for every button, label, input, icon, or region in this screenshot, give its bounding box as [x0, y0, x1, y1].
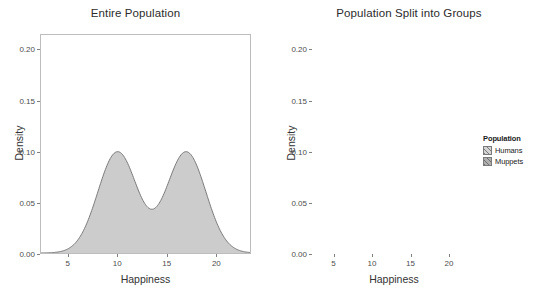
- y-tick-mark-right: [309, 101, 312, 102]
- density-plot-left: [41, 35, 250, 253]
- density-area-entire-population: [41, 152, 250, 253]
- x-tick-label-right: 5: [331, 259, 335, 268]
- x-axis-right: 5101520: [312, 254, 476, 270]
- facet-entire-population: Entire Population Density Happiness 0.00…: [0, 0, 271, 296]
- legend-item-humans[interactable]: Humans: [483, 145, 541, 155]
- legend-item-muppets[interactable]: Muppets: [483, 156, 541, 166]
- x-axis-left: 5101520: [40, 254, 251, 270]
- x-tick-mark-left: [216, 254, 217, 257]
- x-tick-mark-right: [334, 254, 335, 257]
- legend: Population HumansMuppets: [483, 134, 541, 167]
- plot-panel-left: [40, 34, 251, 254]
- y-tick-label-left: 0.10: [19, 147, 35, 156]
- facet-title-right: Population Split into Groups: [301, 7, 517, 19]
- y-tick-label-left: 0.20: [19, 45, 35, 54]
- y-axis-right: 0.000.050.100.150.20: [278, 34, 312, 254]
- y-tick-label-left: 0.15: [19, 96, 35, 105]
- x-tick-label-right: 10: [368, 259, 377, 268]
- y-tick-mark-right: [309, 203, 312, 204]
- x-tick-label-left: 5: [66, 259, 70, 268]
- x-tick-mark-right: [411, 254, 412, 257]
- x-tick-mark-left: [68, 254, 69, 257]
- x-tick-label-right: 15: [406, 259, 415, 268]
- y-tick-label-left: 0.00: [19, 250, 35, 259]
- x-tick-label-left: 20: [212, 259, 221, 268]
- x-tick-mark-left: [167, 254, 168, 257]
- x-tick-mark-right: [449, 254, 450, 257]
- x-tick-label-right: 20: [445, 259, 454, 268]
- x-tick-mark-left: [117, 254, 118, 257]
- y-tick-label-right: 0.10: [291, 147, 307, 156]
- legend-title: Population: [483, 134, 541, 143]
- legend-key-muppets-icon: [483, 157, 492, 166]
- y-tick-mark-right: [309, 152, 312, 153]
- x-tick-mark-right: [372, 254, 373, 257]
- y-axis-left: 0.000.050.100.150.20: [6, 34, 40, 254]
- legend-label-muppets: Muppets: [495, 157, 523, 166]
- x-tick-label-left: 10: [113, 259, 122, 268]
- facet-title-left: Entire Population: [10, 7, 261, 19]
- y-tick-label-left: 0.05: [19, 198, 35, 207]
- legend-label-humans: Humans: [495, 146, 522, 155]
- x-axis-title-left: Happiness: [40, 273, 251, 285]
- y-tick-label-right: 0.15: [291, 96, 307, 105]
- y-tick-mark-right: [309, 49, 312, 50]
- density-figure: Entire Population Density Happiness 0.00…: [0, 0, 542, 296]
- legend-items: HumansMuppets: [483, 145, 541, 166]
- y-tick-label-right: 0.20: [291, 45, 307, 54]
- y-tick-label-right: 0.05: [291, 198, 307, 207]
- legend-key-humans-icon: [483, 146, 492, 155]
- x-tick-label-left: 15: [162, 259, 171, 268]
- y-tick-label-right: 0.00: [291, 250, 307, 259]
- x-axis-title-right: Happiness: [312, 273, 476, 285]
